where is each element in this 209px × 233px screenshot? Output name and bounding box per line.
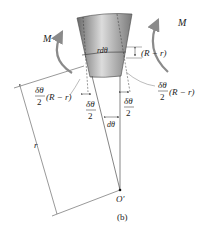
radius-ext-bottom bbox=[52, 190, 120, 216]
offset-label: (R − r) bbox=[141, 48, 167, 58]
figure-caption: (b) bbox=[117, 212, 128, 222]
left-note-num: δθ bbox=[35, 85, 44, 95]
arc-label: rdθ bbox=[97, 46, 108, 55]
right-note-den: 2 bbox=[160, 92, 165, 102]
moment-arrow-right bbox=[153, 20, 168, 72]
radius-ext-top bbox=[14, 66, 84, 88]
radial-line-left bbox=[92, 76, 120, 190]
curved-beam-element-diagram: M M rdθ (R − r) δθ 2 (R − r) δθ 2 (R − r… bbox=[0, 0, 209, 233]
moment-arrow-left bbox=[57, 32, 72, 73]
inner-right-num: δθ bbox=[124, 96, 133, 106]
moment-label-right: M bbox=[177, 17, 187, 28]
center-label: O′ bbox=[116, 194, 125, 204]
right-note-factor: (R − r) bbox=[169, 87, 195, 97]
left-note-factor: (R − r) bbox=[46, 92, 72, 102]
left-note-den: 2 bbox=[37, 97, 42, 107]
radius-label: r bbox=[34, 140, 38, 150]
inner-left-num: δθ bbox=[86, 99, 95, 109]
moment-label-left: M bbox=[42, 33, 52, 44]
right-note-num: δθ bbox=[158, 80, 167, 90]
inner-left-den: 2 bbox=[88, 111, 93, 121]
angle-label: dθ bbox=[107, 120, 115, 129]
inner-right-den: 2 bbox=[126, 108, 131, 118]
